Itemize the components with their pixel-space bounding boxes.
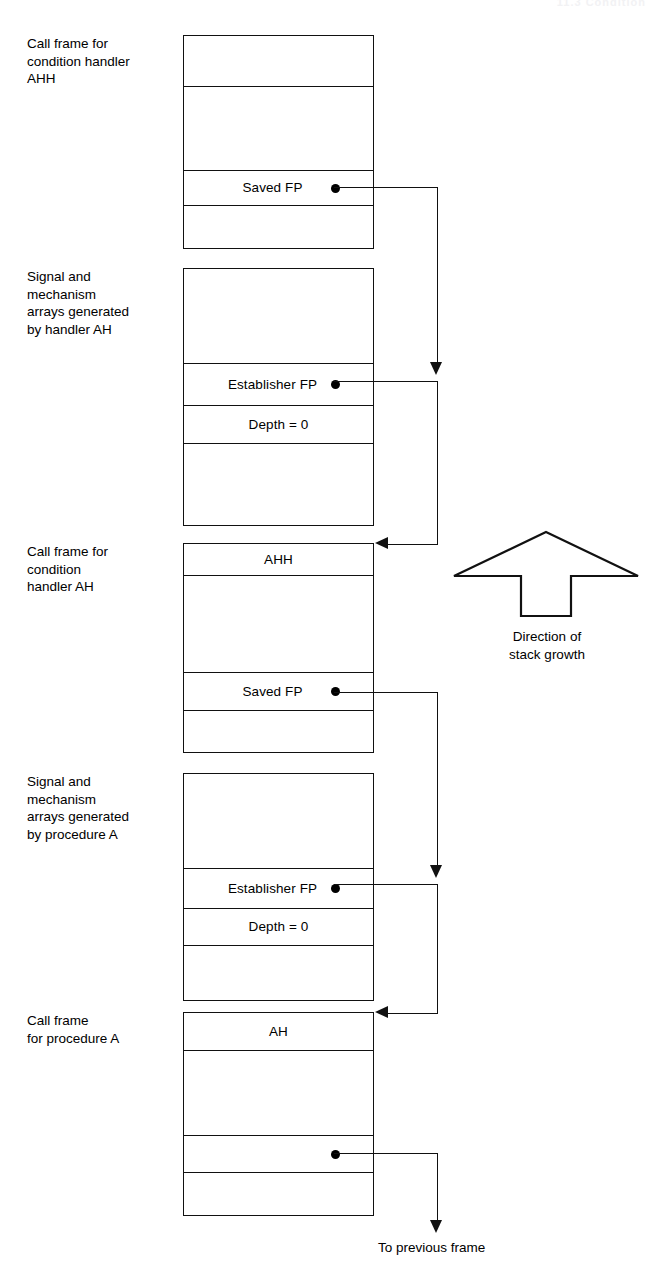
side-label-call-frame-a: Call frame for procedure A bbox=[27, 1012, 179, 1047]
frame-cell-label: AH bbox=[269, 1025, 288, 1039]
frame-cell-depth: Depth = 0 bbox=[184, 406, 373, 444]
connector-1-arrowhead-icon bbox=[430, 362, 442, 375]
connector-4-horizontal-in bbox=[388, 1013, 438, 1014]
frame-cell bbox=[184, 36, 373, 87]
side-label-call-frame-ahh: Call frame for condition handler AHH bbox=[27, 35, 179, 88]
frame-cell-label: Establisher FP bbox=[228, 882, 317, 896]
frame-block-signal-mechanism-ah: Establisher FP Depth = 0 bbox=[183, 268, 374, 526]
frame-cell-ahh: AHH bbox=[184, 544, 373, 576]
stack-growth-arrow-icon bbox=[452, 528, 640, 620]
frame-cell bbox=[184, 444, 373, 526]
frame-cell-label: Establisher FP bbox=[228, 378, 317, 392]
connector-2-arrowhead-icon bbox=[375, 537, 388, 549]
frame-block-signal-mechanism-a: Establisher FP Depth = 0 bbox=[183, 773, 374, 1001]
frame-cell-label: Depth = 0 bbox=[249, 418, 309, 432]
frame-cell-label: Saved FP bbox=[242, 685, 302, 699]
frame-cell-label: Depth = 0 bbox=[249, 920, 309, 934]
frame-cell-establisher-fp: Establisher FP bbox=[184, 364, 373, 406]
connector-3-arrowhead-icon bbox=[430, 865, 442, 878]
frame-cell-label: Saved FP bbox=[242, 181, 302, 195]
connector-5-vertical bbox=[437, 1153, 438, 1221]
establisher-fp-pointer-dot-icon bbox=[331, 884, 340, 893]
frame-cell bbox=[184, 1173, 373, 1216]
connector-1-horizontal-in bbox=[334, 381, 438, 382]
frame-cell-depth: Depth = 0 bbox=[184, 909, 373, 946]
frame-cell-saved-fp: Saved FP bbox=[184, 171, 373, 206]
frame-cell bbox=[184, 946, 373, 1001]
frame-cell bbox=[184, 87, 373, 171]
saved-fp-pointer-dot-icon bbox=[331, 1150, 340, 1159]
side-label-signal-mechanism-a: Signal and mechanism arrays generated by… bbox=[27, 773, 179, 843]
frame-cell bbox=[184, 711, 373, 753]
frame-cell bbox=[184, 576, 373, 673]
frame-cell-saved-fp bbox=[184, 1136, 373, 1173]
frame-cell bbox=[184, 1051, 373, 1136]
diagram-page: 11.3 Condition Call frame for condition … bbox=[0, 0, 670, 1280]
saved-fp-pointer-dot-icon bbox=[331, 184, 340, 193]
frame-cell-ah: AH bbox=[184, 1013, 373, 1051]
connector-3-vertical bbox=[437, 692, 438, 865]
connector-1-vertical bbox=[437, 187, 438, 362]
side-label-call-frame-ah: Call frame for condition handler AH bbox=[27, 543, 179, 596]
connector-4-vertical bbox=[437, 884, 438, 1013]
connector-2-vertical bbox=[437, 381, 438, 544]
connector-5-horizontal-out bbox=[334, 1153, 438, 1154]
frame-cell-label: AHH bbox=[264, 553, 293, 567]
frame-cell bbox=[184, 774, 373, 869]
connector-4-arrowhead-icon bbox=[375, 1006, 388, 1018]
connector-3-horizontal-out bbox=[334, 692, 438, 693]
frame-cell bbox=[184, 206, 373, 249]
frame-block-call-frame-a: AH bbox=[183, 1012, 374, 1216]
side-label-signal-mechanism-ah: Signal and mechanism arrays generated by… bbox=[27, 268, 179, 338]
frame-cell-establisher-fp: Establisher FP bbox=[184, 869, 373, 909]
frame-block-call-frame-ah: AHH Saved FP bbox=[183, 543, 374, 753]
connector-1-horizontal-out bbox=[334, 187, 438, 188]
connector-5-arrowhead-icon bbox=[430, 1220, 442, 1233]
to-previous-frame-label: To previous frame bbox=[378, 1240, 485, 1255]
connector-3-horizontal-in bbox=[334, 884, 438, 885]
connector-2-horizontal-in bbox=[388, 544, 438, 545]
frame-cell bbox=[184, 269, 373, 364]
frame-block-call-frame-ahh: Saved FP bbox=[183, 35, 374, 249]
page-header-text: 11.3 Condition bbox=[557, 0, 646, 8]
stack-growth-caption: Direction of stack growth bbox=[452, 628, 642, 663]
